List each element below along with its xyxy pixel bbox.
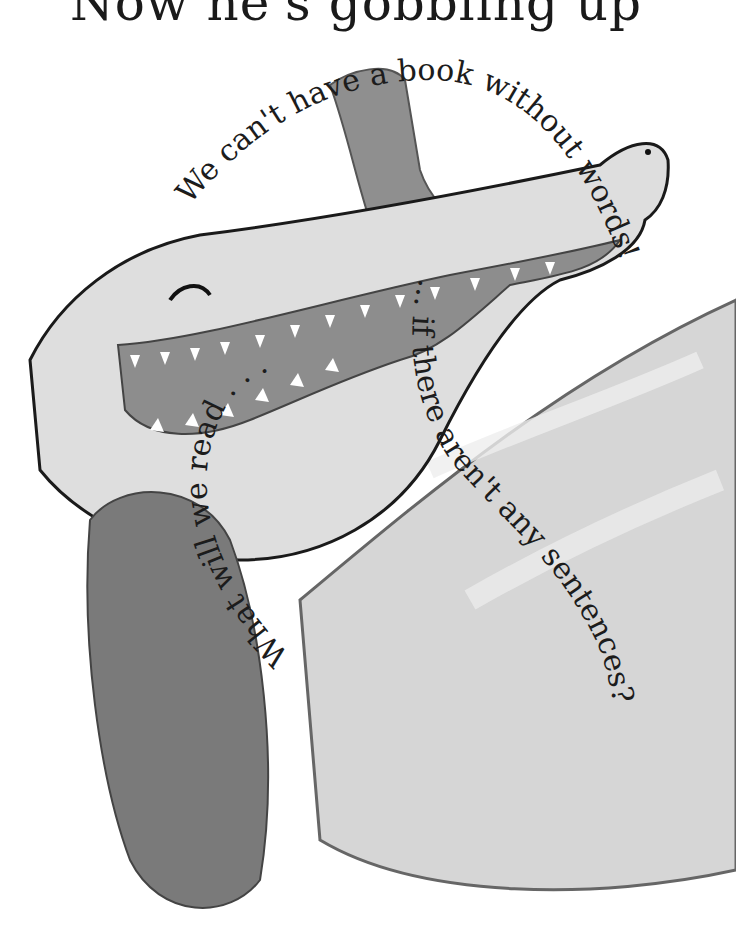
nostril-icon [645, 149, 651, 155]
picture-book-page: Now he's gobbling up [0, 0, 736, 934]
crocodile-illustration: We can't have a book without words! ... … [0, 0, 736, 934]
